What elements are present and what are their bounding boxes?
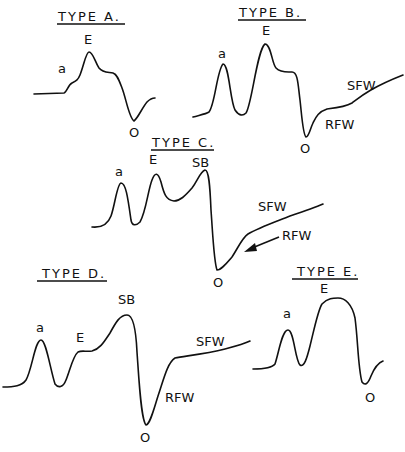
label-E: E — [76, 330, 84, 345]
panel-type-a: TYPE A. a E O — [34, 9, 155, 140]
label-SFW: SFW — [258, 199, 287, 214]
label-SB: SB — [192, 155, 209, 170]
panel-title: TYPE E. — [296, 264, 359, 279]
panel-title: TYPE C. — [151, 135, 215, 150]
panel-title: TYPE D. — [41, 266, 106, 281]
rfw-arrow-head-icon — [244, 243, 257, 252]
label-E: E — [84, 32, 92, 47]
waveform-types-diagram: TYPE A. a E O TYPE B. a E O SFW RFW TYPE… — [0, 0, 405, 452]
label-O: O — [213, 275, 223, 290]
label-a: a — [36, 320, 44, 335]
label-O: O — [300, 141, 310, 156]
label-O: O — [129, 125, 139, 140]
rfw-arrow-shaft — [252, 237, 279, 248]
label-E: E — [149, 152, 157, 167]
panel-title: TYPE A. — [57, 9, 121, 24]
waveform-curve — [92, 170, 323, 270]
label-a: a — [283, 306, 291, 321]
label-a: a — [115, 164, 123, 179]
label-a: a — [218, 46, 226, 61]
label-SB: SB — [118, 292, 135, 307]
label-a: a — [58, 61, 66, 76]
waveform-curve — [34, 52, 155, 121]
waveform-curve — [253, 298, 383, 384]
label-RFW: RFW — [165, 390, 195, 405]
label-O: O — [365, 390, 375, 405]
panel-type-d: TYPE D. a E SB O SFW RFW — [3, 266, 250, 445]
label-SFW: SFW — [347, 78, 376, 93]
label-E: E — [320, 281, 328, 296]
label-SFW: SFW — [196, 334, 225, 349]
panel-type-b: TYPE B. a E O SFW RFW — [193, 5, 403, 156]
label-O: O — [140, 430, 150, 445]
panel-type-e: TYPE E. a E O — [253, 264, 383, 405]
panel-title: TYPE B. — [238, 5, 302, 20]
label-RFW: RFW — [282, 228, 312, 243]
label-RFW: RFW — [325, 117, 355, 132]
panel-type-c: TYPE C. a E SB O SFW RFW — [92, 135, 323, 290]
label-E: E — [262, 23, 270, 38]
